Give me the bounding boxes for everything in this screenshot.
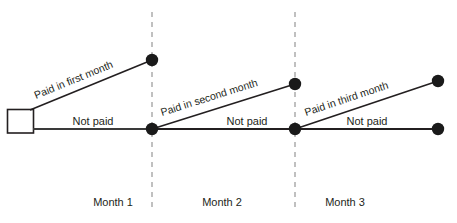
payment-timeline-diagram: Paid in first month Paid in second month… bbox=[0, 0, 457, 223]
node-paid-month2 bbox=[289, 78, 301, 90]
label-paid-first-month: Paid in first month bbox=[32, 58, 114, 101]
period-label-month-3: Month 3 bbox=[325, 196, 365, 208]
cropped-caption-strip bbox=[0, 216, 457, 223]
node-paid-month1 bbox=[146, 54, 158, 66]
node-not-paid-month3 bbox=[432, 123, 444, 135]
node-not-paid-month2 bbox=[289, 123, 301, 135]
root-node-square bbox=[8, 110, 34, 134]
node-not-paid-month1 bbox=[146, 123, 158, 135]
node-paid-month3 bbox=[432, 75, 444, 87]
period-label-month-2: Month 2 bbox=[202, 196, 242, 208]
label-not-paid-month1: Not paid bbox=[73, 115, 114, 127]
label-not-paid-month2: Not paid bbox=[227, 115, 268, 127]
label-not-paid-month3: Not paid bbox=[347, 115, 388, 127]
diagram-canvas: Paid in first month Paid in second month… bbox=[0, 0, 457, 223]
period-label-month-1: Month 1 bbox=[93, 196, 133, 208]
